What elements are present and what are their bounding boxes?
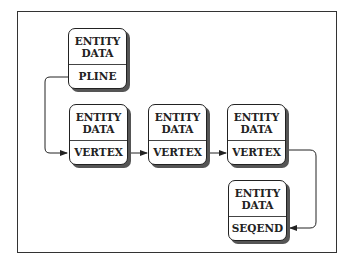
entity-text: ENTITY [149,111,206,123]
node-type-label: SEQEND [229,217,286,240]
node-type-label: PLINE [69,65,126,88]
entity-data-label: ENTITY DATA [149,105,206,141]
entity-text: ENTITY [70,111,127,123]
data-text: DATA [70,123,127,135]
entity-text: ENTITY [229,187,286,199]
node-vertex-3: ENTITY DATA VERTEX [227,104,286,165]
entity-data-label: ENTITY DATA [70,105,127,141]
entity-text: ENTITY [69,35,126,47]
node-seqend: ENTITY DATA SEQEND [228,180,287,241]
node-pline: ENTITY DATA PLINE [68,28,127,89]
data-text: DATA [228,123,285,135]
node-vertex-2: ENTITY DATA VERTEX [148,104,207,165]
node-type-label: VERTEX [149,141,206,164]
node-type-label: VERTEX [70,141,127,164]
edge-pline-vertex1 [45,77,68,153]
entity-data-label: ENTITY DATA [229,181,286,217]
entity-data-label: ENTITY DATA [69,29,126,65]
data-text: DATA [69,47,126,59]
entity-data-label: ENTITY DATA [228,105,285,141]
node-vertex-1: ENTITY DATA VERTEX [69,104,128,165]
edge-vertex3-seqend [289,150,316,228]
data-text: DATA [229,199,286,211]
data-text: DATA [149,123,206,135]
entity-text: ENTITY [228,111,285,123]
node-type-label: VERTEX [228,141,285,164]
